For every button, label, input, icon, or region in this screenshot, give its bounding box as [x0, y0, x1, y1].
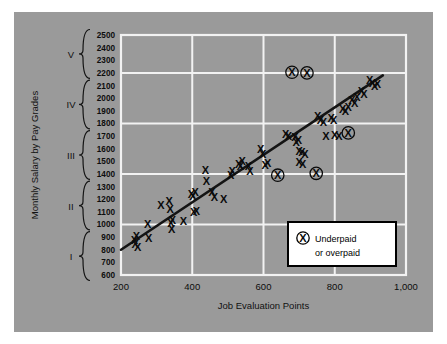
legend[interactable]: XUnderpaidor overpaid	[288, 222, 396, 266]
y-tick-label: 1100	[97, 208, 115, 217]
outlier-marker: X	[288, 66, 296, 78]
y-tick-label: 700	[101, 258, 115, 267]
data-point-marker: X	[374, 78, 382, 90]
data-point-marker: X	[322, 130, 330, 142]
grade-label: IV	[67, 99, 77, 110]
outlier-marker: X	[303, 67, 311, 79]
y-tick-label: 800	[101, 246, 115, 255]
data-point-marker: X	[157, 199, 165, 211]
x-tick-label: 800	[327, 281, 343, 292]
data-point-marker: X	[320, 116, 328, 128]
data-point-marker: X	[246, 165, 254, 177]
y-tick-label: 1400	[97, 170, 116, 179]
x-tick-label: 200	[113, 281, 129, 292]
grade-label: III	[67, 150, 75, 161]
data-point-marker: X	[360, 88, 368, 100]
data-point-marker: X	[145, 232, 153, 244]
data-point-marker: X	[169, 214, 177, 226]
data-point-marker: X	[203, 175, 211, 187]
y-tick-label: 1600	[97, 145, 116, 154]
y-tick-label: 1000	[97, 220, 116, 229]
legend-label-line1: Underpaid	[315, 234, 357, 244]
y-tick-label: 900	[101, 233, 115, 242]
data-point-marker: X	[211, 191, 219, 203]
data-point-marker: X	[191, 186, 199, 198]
grade-label: V	[68, 49, 75, 60]
outlier-marker: X	[274, 169, 282, 181]
data-point-marker: X	[264, 157, 272, 169]
data-point-marker: X	[180, 215, 188, 227]
y-tick-label: 2000	[97, 94, 116, 103]
grade-label: I	[70, 251, 73, 262]
x-tick-label: 400	[184, 281, 200, 292]
x-axis-title: Job Evaluation Points	[218, 300, 310, 311]
data-point-marker: X	[144, 218, 152, 230]
outlier-marker: X	[345, 127, 353, 139]
chart-figure: XXXXXXXXXXXXXXXXXXXXXXXXXXXXXXXXXXXXXXXX…	[0, 0, 447, 344]
data-point-marker: X	[299, 158, 307, 170]
y-tick-label: 600	[101, 271, 115, 280]
y-tick-label: 2400	[97, 44, 116, 53]
y-tick-label: 1500	[97, 157, 116, 166]
x-tick-label: 1,000	[394, 281, 418, 292]
y-tick-label: 1700	[97, 132, 116, 141]
y-tick-label: 2300	[97, 56, 116, 65]
y-tick-label: 2500	[97, 31, 116, 40]
chart-card	[14, 12, 433, 332]
y-tick-label: 1900	[97, 107, 116, 116]
y-tick-label: 1300	[97, 183, 116, 192]
y-tick-label: 2200	[97, 69, 116, 78]
x-tick-label: 600	[256, 281, 272, 292]
legend-marker: X	[299, 232, 307, 244]
data-point-marker: X	[330, 114, 338, 126]
data-point-marker: X	[193, 205, 201, 217]
data-point-marker: X	[134, 241, 142, 253]
outlier-marker: X	[313, 167, 321, 179]
y-tick-label: 1800	[97, 119, 116, 128]
grade-label: II	[68, 201, 73, 212]
y-tick-label: 1200	[97, 195, 116, 204]
y-axis-title: Monthly Salary by Pay Grades	[29, 91, 40, 220]
data-point-marker: X	[220, 193, 228, 205]
y-tick-label: 2100	[97, 82, 116, 91]
legend-label-line2: or overpaid	[315, 248, 360, 258]
